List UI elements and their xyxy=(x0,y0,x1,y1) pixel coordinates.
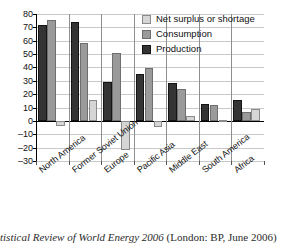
legend-label: Production xyxy=(156,44,201,54)
y-axis-tick-label: –10 xyxy=(18,130,33,139)
bar-chart-figure: 80706050403020100–10–20–30 North America… xyxy=(0,0,283,248)
x-axis-tick-mark xyxy=(69,161,70,165)
bar-prod xyxy=(103,82,112,121)
legend-item: Net surplus or shortage xyxy=(142,13,255,25)
legend-swatch-cons xyxy=(142,30,151,39)
x-axis-tick-mark xyxy=(166,161,167,165)
y-axis-tick-label: –30 xyxy=(18,157,33,166)
chart-legend: Net surplus or shortageConsumptionProduc… xyxy=(142,13,255,58)
bar-net xyxy=(251,109,260,121)
y-axis-tick-label: 70 xyxy=(23,23,33,32)
bar-net xyxy=(186,116,195,121)
group-separator xyxy=(69,14,70,161)
y-axis-tick-label: 30 xyxy=(23,76,33,85)
legend-swatch-net xyxy=(142,15,151,24)
legend-label: Net surplus or shortage xyxy=(156,14,255,24)
legend-item: Production xyxy=(142,43,255,55)
bar-cons xyxy=(177,89,186,121)
bar-net xyxy=(89,100,98,121)
bar-cons xyxy=(80,43,89,121)
y-axis-tick-label: 20 xyxy=(23,90,33,99)
bar-prod xyxy=(168,83,177,121)
bar-net xyxy=(56,121,65,126)
group-separator xyxy=(101,14,102,161)
y-axis-tick-label: 80 xyxy=(23,10,33,19)
bar-cons xyxy=(210,105,219,121)
figure-caption: tistical Review of World Energy 2006 (Lo… xyxy=(0,231,283,243)
bar-cons xyxy=(112,53,121,121)
gridline xyxy=(36,134,264,135)
group-separator xyxy=(134,14,135,161)
bar-prod xyxy=(71,22,80,121)
bar-cons xyxy=(145,68,154,121)
zero-axis-line xyxy=(36,121,264,122)
x-axis-tick-mark xyxy=(199,161,200,165)
bar-cons xyxy=(47,20,56,121)
bar-net xyxy=(219,120,228,122)
bar-prod xyxy=(233,100,242,121)
x-axis-tick-mark xyxy=(264,161,265,165)
x-axis-tick-mark xyxy=(231,161,232,165)
y-axis-tick-labels: 80706050403020100–10–20–30 xyxy=(0,14,33,161)
bar-prod xyxy=(136,74,145,121)
caption-italic: tistical Review of World Energy 2006 xyxy=(0,231,164,243)
bar-net xyxy=(154,121,163,127)
legend-swatch-prod xyxy=(142,45,151,54)
y-axis-line xyxy=(36,14,37,161)
y-axis-tick-label: 40 xyxy=(23,63,33,72)
legend-label: Consumption xyxy=(156,29,212,39)
x-axis-tick-mark xyxy=(134,161,135,165)
y-axis-tick-label: 10 xyxy=(23,103,33,112)
bar-prod xyxy=(201,104,210,121)
legend-item: Consumption xyxy=(142,28,255,40)
y-axis-tick-label: 60 xyxy=(23,36,33,45)
y-axis-tick-label: –20 xyxy=(18,143,33,152)
bar-cons xyxy=(242,112,251,121)
x-axis-tick-mark xyxy=(36,161,37,165)
x-axis-tick-mark xyxy=(101,161,102,165)
bar-prod xyxy=(38,25,47,121)
y-axis-tick-label: 50 xyxy=(23,50,33,59)
caption-roman: (London: BP, June 2006) xyxy=(164,231,277,243)
